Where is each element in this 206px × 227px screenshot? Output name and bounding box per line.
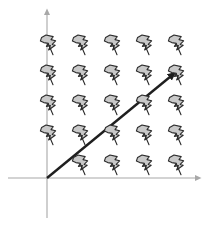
lightning-bolt-icon xyxy=(168,35,183,55)
lightning-bolt-icon xyxy=(168,95,183,115)
axes-group xyxy=(8,14,196,218)
lightning-bolt-icon xyxy=(72,125,87,145)
lightning-bolt-icon xyxy=(104,155,119,175)
lightning-bolt-icon xyxy=(168,65,183,85)
lightning-bolt-icon xyxy=(104,125,119,145)
lightning-bolt-icon xyxy=(72,155,87,175)
lightning-bolt-icon xyxy=(72,35,87,55)
lightning-bolt-icon xyxy=(136,125,151,145)
lightning-bolt-icon xyxy=(136,35,151,55)
lightning-bolt-icon xyxy=(72,95,87,115)
vector-field-figure xyxy=(0,0,206,227)
lightning-bolt-icon xyxy=(72,65,87,85)
lightning-bolt-icon xyxy=(40,125,55,145)
lightning-bolt-icon xyxy=(40,35,55,55)
lightning-bolt-icon xyxy=(168,125,183,145)
lightning-bolt-icon xyxy=(136,65,151,85)
slope-field-glyphs xyxy=(40,35,183,175)
lightning-bolt-icon xyxy=(104,95,119,115)
lightning-bolt-icon xyxy=(40,65,55,85)
lightning-bolt-icon xyxy=(104,35,119,55)
lightning-bolt-icon xyxy=(168,155,183,175)
lightning-bolt-icon xyxy=(136,155,151,175)
lightning-bolt-icon xyxy=(40,95,55,115)
lightning-bolt-icon xyxy=(136,95,151,115)
figure-canvas xyxy=(0,0,206,227)
lightning-bolt-icon xyxy=(104,65,119,85)
